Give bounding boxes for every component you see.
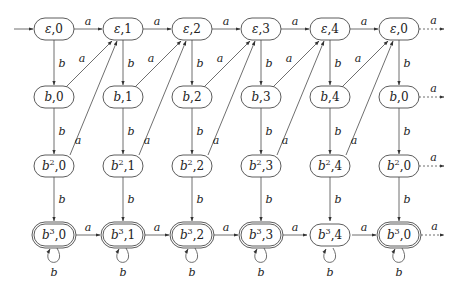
edge-label-b: b [403,57,410,70]
automaton-diagram: ε,0ε,1ε,2ε,3ε,4ε,0b,0b,1b,2b,3b,4b,0b2,0… [0,0,468,291]
edge-label-a: a [148,52,155,65]
self-loop-b [48,248,60,262]
edge-label-b: b [265,125,272,138]
state-node-e3[interactable]: ε,3 [241,18,281,40]
state-label: ε,1 [114,22,132,36]
edge-label-b: b [403,125,410,138]
edge-label-a: a [282,134,289,147]
edge-label-a: a [85,221,92,234]
edge-label-a: a [292,221,299,234]
state-node-e0b[interactable]: ε,0 [379,18,419,40]
state-label: b2,3 [249,158,273,173]
edge-label-b: b [196,125,203,138]
edge-label-b: b [395,266,402,279]
edge-label-b: b [334,57,341,70]
state-node-b3[interactable]: b,3 [241,86,281,108]
state-node-b4[interactable]: b,4 [310,86,350,108]
transition-a-diagonal [273,41,319,87]
state-label: b,4 [320,90,340,104]
state-label: b,0 [44,90,63,104]
edge-label-a: a [144,134,151,147]
edge-label-b: b [196,193,203,206]
transition-a-diagonal [204,41,250,87]
edge-label-a: a [154,221,161,234]
edge-label-a: a [355,52,362,65]
edge-label-a: a [79,52,86,65]
state-node-e1[interactable]: ε,1 [103,18,143,40]
edge-label-a: a [430,151,437,164]
self-loop-b [117,248,129,262]
edge-label-a: a [292,15,299,28]
state-label: b,1 [113,90,132,104]
state-label: b2,4 [318,158,343,173]
self-loop-b [186,248,198,262]
state-node-bbb4[interactable]: b3,4 [310,224,350,246]
state-node-bb1[interactable]: b2,1 [103,155,143,177]
self-loop-b [393,248,405,262]
transition-a-diagonal [135,41,181,87]
self-loop-b [324,248,336,262]
edge-label-a: a [351,134,358,147]
state-node-bbb2[interactable]: b3,2 [170,222,214,248]
state-label: b2,0 [42,158,66,173]
state-node-b1[interactable]: b,1 [103,86,143,108]
edge-label-a: a [430,14,437,27]
state-node-bb0[interactable]: b2,0 [34,155,74,177]
edge-label-a: a [75,134,82,147]
state-label: b3,4 [318,227,343,242]
state-label: b2,1 [111,158,135,173]
edge-label-a: a [223,15,230,28]
edge-label-a: a [431,220,438,233]
state-label: b,3 [251,90,270,104]
edge-label-a: a [430,82,437,95]
state-node-b0b[interactable]: b,0 [379,86,419,108]
edge-label-b: b [58,125,65,138]
self-loop-b [255,248,267,262]
transition-a-diagonal [342,41,388,87]
edge-label-a: a [286,52,293,65]
state-node-bb3[interactable]: b2,3 [241,155,281,177]
edge-label-a: a [154,15,161,28]
edge-label-b: b [326,266,333,279]
edge-label-b: b [58,193,65,206]
edge-label-b: b [127,193,134,206]
state-node-bb0b[interactable]: b2,0 [379,155,419,177]
state-label: b3,3 [249,227,273,242]
state-node-b0[interactable]: b,0 [34,86,74,108]
state-node-bbb1[interactable]: b3,1 [101,222,145,248]
edge-label-b: b [119,266,126,279]
state-node-bbb3[interactable]: b3,3 [239,222,283,248]
state-label: ε,0 [390,22,408,36]
state-label: b3,1 [111,227,135,242]
state-node-e2[interactable]: ε,2 [172,18,212,40]
edge-label-b: b [196,57,203,70]
edge-label-a: a [361,15,368,28]
state-label: ε,4 [321,22,339,36]
state-node-b2[interactable]: b,2 [172,86,212,108]
transition-a-diagonal [66,41,112,87]
edge-label-b: b [334,193,341,206]
state-label: b3,0 [42,227,66,242]
state-node-e0[interactable]: ε,0 [34,18,74,40]
state-node-bb2[interactable]: b2,2 [172,155,212,177]
state-label: b,2 [182,90,201,104]
edge-label-a: a [217,52,224,65]
state-node-bb4[interactable]: b2,4 [310,155,350,177]
state-node-e4[interactable]: ε,4 [310,18,350,40]
edge-label-b: b [403,193,410,206]
edge-label-b: b [127,125,134,138]
edge-label-a: a [85,15,92,28]
edge-label-b: b [334,125,341,138]
state-label: b3,0 [387,227,411,242]
edge-label-a: a [213,134,220,147]
state-label: ε,2 [183,22,201,36]
edge-label-b: b [265,57,272,70]
state-label: b2,0 [387,158,411,173]
state-node-bbb0[interactable]: b3,0 [32,222,76,248]
edge-label-a: a [361,221,368,234]
edge-label-b: b [127,57,134,70]
edge-label-b: b [188,266,195,279]
state-label: ε,3 [252,22,270,36]
state-node-bbb0b[interactable]: b3,0 [377,222,421,248]
edge-label-b: b [50,266,57,279]
